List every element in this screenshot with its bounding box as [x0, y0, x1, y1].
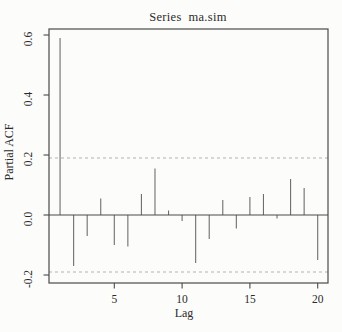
x-tick-label-10: 10	[176, 293, 188, 305]
y-tick-label-0.2: 0.2	[22, 152, 34, 167]
pacf-plot-canvas: Series ma.sim Lag Partial ACF -0.20.00.2…	[0, 0, 342, 332]
x-tick-label-5: 5	[111, 293, 117, 305]
x-tick-label-15: 15	[244, 293, 256, 305]
x-tick-label-20: 20	[312, 293, 324, 305]
y-axis-ticks: -0.20.00.20.40.6	[22, 32, 49, 289]
plot-box	[49, 29, 328, 283]
y-tick-label-0.0: 0.0	[22, 212, 34, 227]
y-tick-label-0.6: 0.6	[22, 32, 34, 47]
plot-title: Series ma.sim	[149, 10, 226, 24]
y-tick-label-0.4: 0.4	[22, 92, 34, 107]
x-axis-label: Lag	[175, 306, 194, 320]
x-axis-ticks: 5101520	[111, 283, 323, 305]
y-axis-label: Partial ACF	[2, 123, 16, 180]
pacf-bars	[60, 38, 318, 266]
pacf-figure: Series ma.sim Lag Partial ACF -0.20.00.2…	[0, 0, 342, 332]
y-tick-label--0.2: -0.2	[22, 270, 34, 288]
